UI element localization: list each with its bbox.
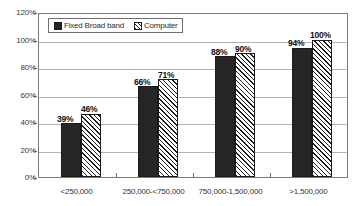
bar-group: 39% 46%: [39, 14, 116, 177]
legend-label: Computer: [144, 21, 178, 30]
x-axis-category-label: 250,000-<750,000: [115, 187, 192, 196]
y-axis-tick-mark: [33, 68, 37, 69]
bar-computer[interactable]: [235, 53, 255, 177]
bar-fixed-broadband[interactable]: [215, 56, 235, 177]
bar-fixed-broadband[interactable]: [292, 48, 312, 177]
y-axis-tick-label: 80%: [2, 64, 36, 72]
y-axis-tick-label: 20%: [2, 147, 36, 155]
bar-fixed-broadband[interactable]: [138, 86, 158, 177]
y-axis-tick-mark: [33, 151, 37, 152]
y-axis-tick-label: 40%: [2, 119, 36, 127]
legend-entry-fixed-broadband[interactable]: Fixed Broad band: [54, 21, 124, 30]
x-axis-category-label: >1,500,000: [269, 187, 348, 196]
y-axis-tick-mark: [33, 123, 37, 124]
bar-value-label: 66%: [134, 78, 150, 87]
plot-inner: 39% 46% 66% 71% 88% 90% 94%: [39, 14, 347, 177]
y-axis-tick-mark: [33, 13, 37, 14]
bar-value-label: 94%: [288, 39, 304, 48]
y-axis-tick-mark: [33, 41, 37, 42]
y-axis-tick-mark: [33, 96, 37, 97]
bar-computer[interactable]: [81, 114, 101, 177]
y-axis-tick-label: 120%: [2, 9, 36, 17]
bar-value-label: 90%: [235, 45, 251, 54]
bar-value-label: 100%: [310, 31, 331, 40]
bar-fixed-broadband[interactable]: [61, 123, 81, 177]
y-axis-tick-label: 100%: [2, 37, 36, 45]
x-axis-category-label: 750,000-1,500,000: [192, 187, 269, 196]
bar-chart: 120% 100% 80% 60% 40% 20% 0%: [0, 0, 357, 206]
bar-group: 94% 100%: [270, 14, 349, 177]
bar-value-label: 46%: [81, 105, 97, 114]
solid-black-swatch-icon: [54, 22, 62, 30]
bar-group: 66% 71%: [116, 14, 193, 177]
y-axis-tick-label: 0%: [2, 174, 36, 182]
legend-entry-computer[interactable]: Computer: [134, 21, 178, 30]
bar-group: 88% 90%: [193, 14, 270, 177]
bar-value-label: 88%: [211, 48, 227, 57]
bar-value-label: 71%: [158, 71, 174, 80]
chart-legend[interactable]: Fixed Broad band Computer: [48, 18, 183, 33]
bar-computer[interactable]: [158, 79, 178, 177]
bar-value-label: 39%: [57, 115, 73, 124]
x-axis-category-label: <250,000: [38, 187, 115, 196]
bar-computer[interactable]: [312, 40, 332, 178]
y-axis-tick-label: 60%: [2, 92, 36, 100]
hatched-swatch-icon: [134, 22, 142, 30]
plot-area: 39% 46% 66% 71% 88% 90% 94%: [38, 13, 348, 178]
y-axis-tick-mark: [33, 178, 37, 179]
legend-label: Fixed Broad band: [64, 21, 124, 30]
